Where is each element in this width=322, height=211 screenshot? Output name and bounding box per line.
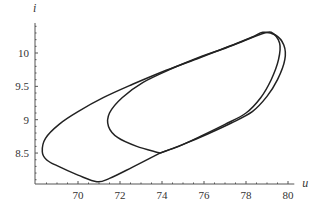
x-tick-label: 76 xyxy=(199,189,211,201)
x-tick-label: 70 xyxy=(73,189,85,201)
x-tick-label: 80 xyxy=(283,189,295,201)
y-axis-label: i xyxy=(33,1,36,15)
curves xyxy=(42,32,285,182)
phase-plot: 707274767880 8.599.510 u i xyxy=(0,0,322,211)
x-tick-label: 74 xyxy=(157,189,169,201)
inner-loop-curve xyxy=(108,32,281,153)
x-axis-label: u xyxy=(302,176,308,190)
y-tick-label: 9.5 xyxy=(15,80,29,92)
outer-loop-curve xyxy=(42,32,285,182)
x-tick-label: 78 xyxy=(241,189,253,201)
y-tick-label: 8.5 xyxy=(15,147,29,159)
x-tick-label: 72 xyxy=(115,189,126,201)
y-tick-label: 10 xyxy=(18,47,30,59)
y-tick-label: 9 xyxy=(24,114,30,126)
axes: 707274767880 8.599.510 u i xyxy=(15,1,308,201)
